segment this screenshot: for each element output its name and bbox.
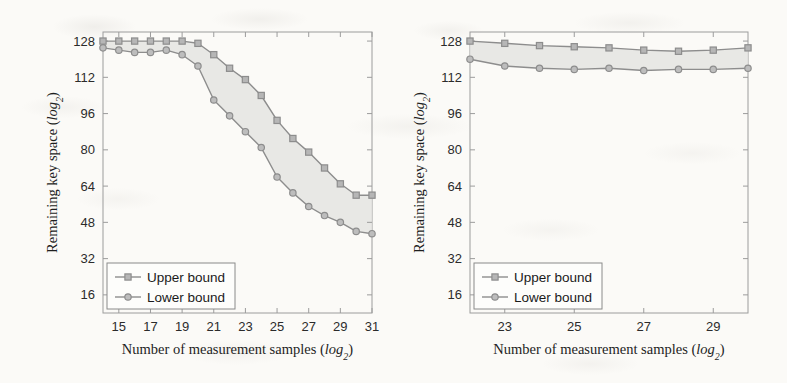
data-point-marker — [306, 149, 312, 155]
legend-marker-square — [125, 274, 131, 280]
data-point-marker — [211, 52, 217, 58]
y-tick-label: 96 — [448, 106, 462, 121]
data-point-marker — [274, 174, 280, 180]
data-point-marker — [258, 144, 264, 150]
y-tick-label: 128 — [73, 34, 95, 49]
y-tick-label: 112 — [441, 70, 462, 85]
data-point-marker — [242, 76, 248, 82]
y-tick-label: 64 — [448, 179, 462, 194]
x-axis-title: Number of measurement samples (log2) — [122, 341, 353, 362]
data-point-marker — [147, 49, 153, 55]
data-point-marker — [337, 219, 343, 225]
data-point-marker — [258, 92, 264, 98]
data-point-marker — [242, 129, 248, 135]
data-point-marker — [179, 51, 185, 57]
data-point-marker — [675, 48, 681, 54]
y-tick-label: 80 — [81, 142, 95, 157]
right-chart: 16324864809611212823252729Number of meas… — [411, 32, 751, 362]
data-point-marker — [290, 135, 296, 141]
legend-marker-circle — [492, 294, 498, 300]
y-tick-label: 112 — [74, 70, 95, 85]
figure-container: 163248648096112128151719212325272931Numb… — [0, 0, 787, 383]
y-tick-label: 128 — [440, 34, 462, 49]
x-tick-label: 25 — [567, 319, 581, 334]
data-point-marker — [195, 40, 201, 46]
legend-marker-square — [492, 274, 498, 280]
data-point-marker — [147, 38, 153, 44]
data-point-marker — [745, 65, 751, 71]
data-point-marker — [132, 38, 138, 44]
data-point-marker — [536, 42, 542, 48]
data-point-marker — [306, 203, 312, 209]
y-tick-label: 96 — [81, 106, 95, 121]
data-point-marker — [353, 228, 359, 234]
x-tick-label: 27 — [637, 319, 651, 334]
data-point-marker — [163, 47, 169, 53]
x-tick-label: 29 — [706, 319, 720, 334]
x-tick-label: 15 — [112, 319, 126, 334]
data-point-marker — [226, 65, 232, 71]
x-tick-label: 29 — [333, 319, 347, 334]
data-point-marker — [641, 47, 647, 53]
x-tick-label: 27 — [301, 319, 315, 334]
bound-band-fill — [103, 41, 372, 234]
y-tick-label: 16 — [81, 287, 95, 302]
x-tick-label: 31 — [365, 319, 379, 334]
data-point-marker — [226, 113, 232, 119]
data-point-marker — [467, 38, 473, 44]
y-tick-label: 16 — [448, 287, 462, 302]
y-axis-title: Remaining key space (log2) — [44, 92, 65, 253]
data-point-marker — [116, 38, 122, 44]
data-point-marker — [337, 181, 343, 187]
data-point-marker — [179, 38, 185, 44]
x-tick-label: 17 — [143, 319, 157, 334]
x-tick-label: 25 — [270, 319, 284, 334]
data-point-marker — [606, 65, 612, 71]
legend-label: Upper bound — [147, 270, 225, 285]
y-tick-label: 32 — [81, 251, 95, 266]
x-tick-label: 21 — [207, 319, 221, 334]
data-point-marker — [502, 40, 508, 46]
legend-label: Lower bound — [514, 290, 592, 305]
data-point-marker — [675, 66, 681, 72]
data-point-marker — [195, 63, 201, 69]
data-point-marker — [369, 192, 375, 198]
data-point-marker — [211, 97, 217, 103]
legend: Upper boundLower bound — [474, 263, 602, 309]
y-tick-label: 64 — [81, 179, 95, 194]
legend-marker-circle — [125, 294, 131, 300]
x-tick-label: 23 — [498, 319, 512, 334]
data-point-marker — [353, 192, 359, 198]
left-chart: 163248648096112128151719212325272931Numb… — [44, 32, 379, 362]
y-tick-label: 48 — [81, 215, 95, 230]
data-point-marker — [290, 190, 296, 196]
x-axis-title: Number of measurement samples (log2) — [493, 341, 724, 362]
data-point-marker — [321, 165, 327, 171]
data-point-marker — [536, 65, 542, 71]
legend-label: Lower bound — [147, 290, 225, 305]
data-point-marker — [274, 117, 280, 123]
data-point-marker — [467, 56, 473, 62]
data-point-marker — [710, 47, 716, 53]
data-point-marker — [710, 66, 716, 72]
data-point-marker — [745, 45, 751, 51]
data-point-marker — [571, 66, 577, 72]
y-tick-label: 48 — [448, 215, 462, 230]
y-axis-title: Remaining key space (log2) — [411, 92, 432, 253]
data-point-marker — [641, 67, 647, 73]
data-point-marker — [163, 38, 169, 44]
data-point-marker — [321, 212, 327, 218]
data-point-marker — [369, 230, 375, 236]
data-point-marker — [502, 63, 508, 69]
y-tick-label: 80 — [448, 142, 462, 157]
x-tick-label: 23 — [238, 319, 252, 334]
legend-label: Upper bound — [514, 270, 592, 285]
data-point-marker — [116, 47, 122, 53]
legend: Upper boundLower bound — [107, 263, 235, 309]
data-point-marker — [100, 45, 106, 51]
chart-figure: 163248648096112128151719212325272931Numb… — [0, 0, 787, 383]
data-point-marker — [571, 44, 577, 50]
y-tick-label: 32 — [448, 251, 462, 266]
x-tick-label: 19 — [175, 319, 189, 334]
data-point-marker — [131, 49, 137, 55]
